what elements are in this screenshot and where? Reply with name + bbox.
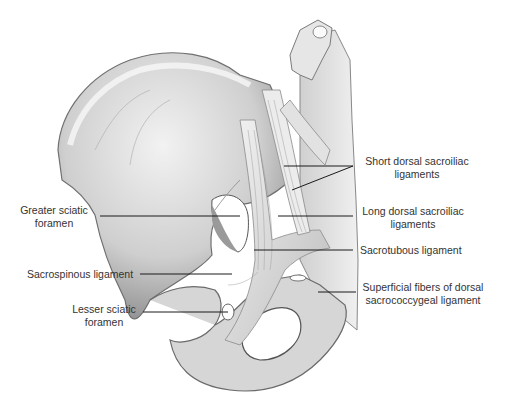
label-superficial-dorsal-sacrococcygeal: Superficial fibers of dorsal sacrococcyg… (360, 281, 486, 306)
label-line-1: Superficial fibers of dorsal (360, 281, 486, 294)
label-sacrotuberous-ligament: Sacrotubous ligament (360, 244, 464, 257)
label-greater-sciatic-foramen: Greater sciatic foramen (14, 204, 94, 229)
label-line-1: Sacrospinous ligament (24, 268, 136, 281)
label-line-2: foramen (68, 316, 140, 329)
label-line-1: Short dorsal sacroiliac (358, 155, 476, 168)
anatomical-illustration: Greater sciatic foramen Sacrospinous lig… (0, 0, 506, 407)
label-line-2: ligaments (358, 168, 476, 181)
label-line-2: sacrococcygeal ligament (360, 294, 486, 307)
label-line-2: ligaments (358, 218, 468, 231)
label-line-1: Sacrotubous ligament (360, 244, 464, 257)
label-line-2: foramen (14, 217, 94, 230)
label-line-1: Greater sciatic (14, 204, 94, 217)
label-lesser-sciatic-foramen: Lesser sciatic foramen (68, 303, 140, 328)
label-line-1: Long dorsal sacroiliac (358, 205, 468, 218)
label-short-dorsal-sacroiliac-ligaments: Short dorsal sacroiliac ligaments (358, 155, 476, 180)
label-line-1: Lesser sciatic (68, 303, 140, 316)
label-long-dorsal-sacroiliac-ligaments: Long dorsal sacroiliac ligaments (358, 205, 468, 230)
label-sacrospinous-ligament: Sacrospinous ligament (24, 268, 136, 281)
